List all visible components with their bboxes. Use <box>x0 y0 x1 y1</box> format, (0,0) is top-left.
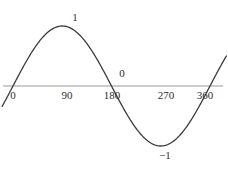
x-tick-label-180: 180 <box>99 90 125 101</box>
max-value-label: 1 <box>63 12 87 23</box>
x-tick-label-360: 360 <box>192 90 218 101</box>
sine-curve-figure: 1 0 −1 0 90 180 270 360 <box>0 0 228 174</box>
x-tick-label-270: 270 <box>153 90 179 101</box>
min-value-label: −1 <box>152 150 178 161</box>
x-tick-label-90: 90 <box>56 90 78 101</box>
x-tick-label-0: 0 <box>5 90 21 101</box>
zero-value-label: 0 <box>113 68 131 79</box>
sine-plot-canvas <box>0 0 228 174</box>
